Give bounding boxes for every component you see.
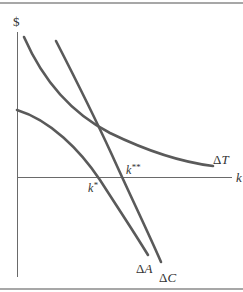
delta-a-prefix: Δ: [136, 261, 144, 276]
delta-c-label: ΔC: [159, 270, 176, 285]
delta-t-var: T: [221, 152, 229, 167]
delta-t-prefix: Δ: [213, 152, 221, 167]
delta-c-curve: [56, 41, 161, 262]
delta-c-prefix: Δ: [159, 270, 167, 285]
x-axis-label: k: [236, 170, 242, 185]
delta-a-label: ΔA: [136, 261, 152, 276]
k-double-star-sup: **: [131, 162, 141, 172]
economics-diagram: $ k ΔT ΔA ΔC k** k*: [0, 0, 243, 292]
delta-a-var: A: [143, 261, 152, 276]
k-star-sup: *: [93, 180, 98, 190]
delta-t-curve: [24, 37, 213, 166]
delta-t-label: ΔT: [213, 152, 229, 167]
k-double-star-label: k**: [126, 162, 141, 177]
delta-a-curve: [17, 110, 148, 255]
y-axis-label: $: [13, 14, 20, 29]
delta-c-var: C: [167, 270, 176, 285]
k-star-label: k*: [88, 180, 98, 195]
